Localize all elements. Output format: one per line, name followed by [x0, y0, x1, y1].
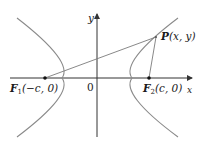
focus-f1-label: F1(−c, 0) — [10, 83, 58, 96]
point-p — [155, 36, 157, 38]
hyperbola-diagram: y x 0 P(x, y) F1(−c, 0) F2(c, 0) — [0, 0, 199, 154]
focus-f1-point — [43, 76, 47, 80]
y-axis-label: y — [88, 13, 94, 24]
diagram-canvas — [0, 0, 199, 154]
origin-label: 0 — [87, 82, 94, 93]
x-axis-label: x — [187, 86, 192, 95]
segment-f2-p — [149, 37, 156, 78]
point-p-label: P(x, y) — [161, 31, 196, 42]
focus-f2-point — [147, 76, 151, 80]
focus-f2-label: F2(c, 0) — [143, 83, 182, 96]
segment-f1-p — [45, 37, 156, 78]
